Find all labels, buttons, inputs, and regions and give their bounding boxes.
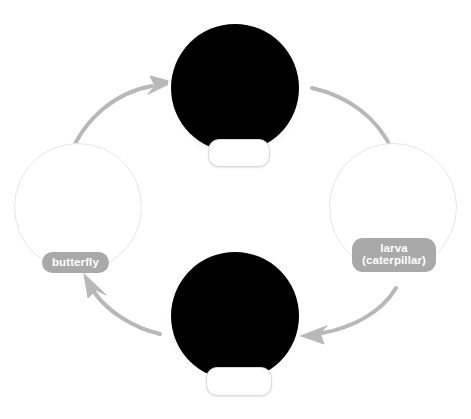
- node-pupa-photo[interactable]: [171, 252, 299, 380]
- arrow-larva-to-pupa: [301, 288, 396, 344]
- label-larva-line1: larva: [362, 242, 426, 254]
- label-larva[interactable]: larva (caterpillar): [352, 238, 436, 272]
- label-butterfly[interactable]: butterfly: [42, 252, 109, 273]
- arrow-pupa-to-butterfly: [84, 274, 160, 334]
- node-egg-photo[interactable]: [171, 24, 299, 152]
- label-butterfly-text: butterfly: [52, 256, 99, 268]
- label-pupa-blank[interactable]: [206, 367, 272, 396]
- label-egg-blank[interactable]: [208, 139, 270, 167]
- label-larva-line2: (caterpillar): [362, 254, 426, 266]
- life-cycle-diagram: butterfly larva (caterpillar): [0, 0, 471, 419]
